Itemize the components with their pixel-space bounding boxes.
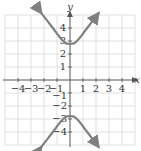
y-tick-label: 4 xyxy=(60,22,66,33)
x-tick-label: 2 xyxy=(93,83,99,94)
x-tick-label: 3 xyxy=(106,83,112,94)
x-axis-label: x xyxy=(134,74,140,85)
y-axis-label: y xyxy=(66,1,73,12)
hyperbola-plot: −4 −3 −2 −1 1 2 3 4 4 3 2 1 −1 −2 −3 −4 … xyxy=(0,0,141,151)
y-tick-label: 1 xyxy=(60,61,66,72)
x-tick-label: 4 xyxy=(119,83,125,94)
x-tick-label: 1 xyxy=(80,83,86,94)
y-tick-label: 2 xyxy=(60,48,66,59)
y-tick-label: −2 xyxy=(52,100,67,111)
